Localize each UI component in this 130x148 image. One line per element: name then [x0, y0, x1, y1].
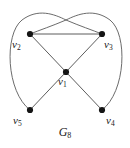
vertex-label-v5: v5 — [13, 115, 22, 126]
vertex-v2 — [27, 31, 33, 37]
vertex-label-v1: v1 — [58, 76, 67, 87]
figure-caption-sub: 8 — [67, 131, 71, 140]
vertex-v4 — [99, 107, 105, 113]
vertex-label-v2: v2 — [12, 39, 21, 50]
vertex-v3 — [99, 31, 105, 37]
edge-v2-v1 — [30, 34, 66, 72]
figure-caption: G8 — [0, 126, 130, 138]
vertex-label-v1-sub: 1 — [63, 80, 67, 89]
vertex-v1 — [63, 69, 69, 75]
vertex-label-v3: v3 — [104, 39, 113, 50]
curved-edge-group — [10, 13, 122, 110]
edge-v3-v1 — [66, 34, 102, 72]
edge-v1-v4 — [66, 72, 102, 110]
vertex-label-v3-sub: 3 — [109, 43, 113, 52]
graph-figure: v2 v3 v1 v5 v4 G8 — [0, 0, 130, 148]
vertex-label-v2-sub: 2 — [17, 43, 21, 52]
vertex-label-v4: v4 — [106, 115, 115, 126]
vertex-v5 — [27, 107, 33, 113]
